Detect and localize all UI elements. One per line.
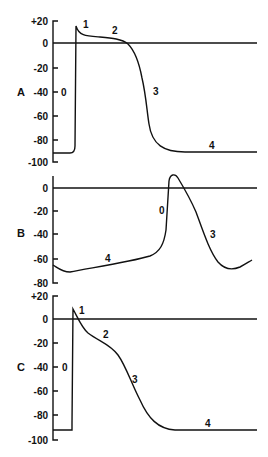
panel-c-tick: +20 [31, 291, 48, 302]
panel-c-tick: -80 [34, 410, 49, 421]
panel-c-tick: -60 [34, 386, 49, 397]
panel-b-tick: -40 [34, 229, 49, 240]
panel-c-tick: 0 [42, 314, 48, 325]
panel-c-tick: -20 [34, 338, 49, 349]
panel-a-y-axis [53, 21, 58, 162]
panel-b-phase-label: 0 [159, 205, 165, 216]
panel-b-label: B [17, 227, 25, 239]
panel-c-trace [53, 309, 257, 430]
panel-b-phase-label: 3 [210, 229, 216, 240]
panel-c-phase-label: 1 [79, 305, 85, 316]
panel-a-tick: 0 [42, 38, 48, 49]
panel-a-phase-label: 1 [83, 19, 89, 30]
panel-a-tick: -80 [34, 135, 49, 146]
panel-c-phase-label: 2 [103, 329, 109, 340]
panel-a-tick: -100 [28, 157, 48, 168]
panel-b-tick: -20 [34, 206, 49, 217]
panel-b: 0 -20 -40 -60 -80 B 0 3 4 [17, 175, 257, 289]
panel-a-tick: -40 [34, 87, 49, 98]
panel-a-phase-label: 3 [153, 86, 159, 97]
panel-a-tick: +20 [31, 16, 48, 27]
panel-c: +20 0 -20 -40 -60 -80 -100 C 0 1 2 3 4 [17, 291, 257, 446]
panel-a-phase-label: 0 [61, 87, 67, 98]
panel-a-label: A [17, 86, 25, 98]
panel-b-tick: 0 [42, 183, 48, 194]
panel-b-phase-label: 4 [105, 253, 111, 264]
panel-c-tick: -40 [34, 362, 49, 373]
panel-c-label: C [17, 361, 25, 373]
panel-b-tick: -60 [34, 254, 49, 265]
panel-b-tick: -80 [34, 278, 49, 289]
panel-a: +20 0 -20 -40 -60 -80 -100 A 0 1 2 3 4 [17, 16, 257, 168]
panel-a-tick: -20 [34, 63, 49, 74]
panel-a-tick: -60 [34, 111, 49, 122]
panel-a-phase-label: 2 [112, 25, 118, 36]
panel-c-phase-label: 0 [62, 362, 68, 373]
panel-c-phase-label: 3 [132, 374, 138, 385]
panel-c-phase-label: 4 [205, 418, 211, 429]
panel-c-y-axis [53, 296, 58, 440]
panel-a-phase-label: 4 [209, 140, 215, 151]
panel-b-trace [53, 175, 252, 272]
action-potential-figure: +20 0 -20 -40 -60 -80 -100 A 0 1 2 3 4 0… [0, 0, 268, 457]
panel-c-tick: -100 [28, 435, 48, 446]
